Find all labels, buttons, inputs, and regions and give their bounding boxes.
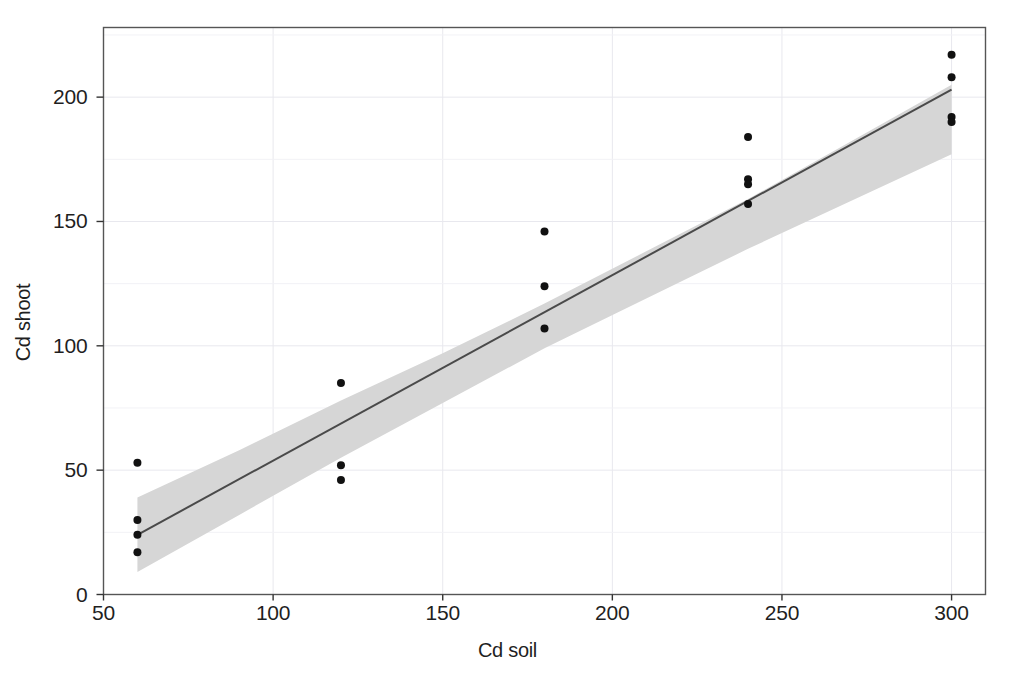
data-point	[133, 459, 141, 467]
y-tick-label: 50	[12, 458, 88, 482]
data-point	[133, 548, 141, 556]
x-tick-label: 50	[92, 601, 115, 625]
x-tick-label: 100	[256, 601, 290, 625]
chart-canvas	[0, 0, 1015, 680]
x-tick-label: 200	[595, 601, 629, 625]
data-point	[948, 51, 956, 59]
regression-line	[137, 90, 951, 535]
data-point	[948, 73, 956, 81]
chart-figure: 50100150200250300 050100150200 Cd soil C…	[0, 0, 1015, 680]
data-point	[133, 531, 141, 539]
x-tick-label: 250	[765, 601, 799, 625]
y-axis-title: Cd shoot	[12, 253, 35, 393]
data-point	[133, 516, 141, 524]
data-point	[541, 324, 549, 332]
x-axis-title: Cd soil	[0, 639, 1015, 662]
y-tick-label: 150	[12, 209, 88, 233]
data-point	[744, 180, 752, 188]
data-point	[948, 118, 956, 126]
data-point	[541, 227, 549, 235]
data-point	[337, 476, 345, 484]
regression-fit-line	[137, 90, 951, 535]
data-point	[337, 379, 345, 387]
data-point	[541, 282, 549, 290]
x-tick-label: 300	[934, 601, 968, 625]
data-point	[744, 133, 752, 141]
data-point	[744, 200, 752, 208]
y-tick-label: 200	[12, 85, 88, 109]
data-point	[337, 461, 345, 469]
y-tick-label: 0	[12, 583, 88, 607]
x-tick-label: 150	[425, 601, 459, 625]
